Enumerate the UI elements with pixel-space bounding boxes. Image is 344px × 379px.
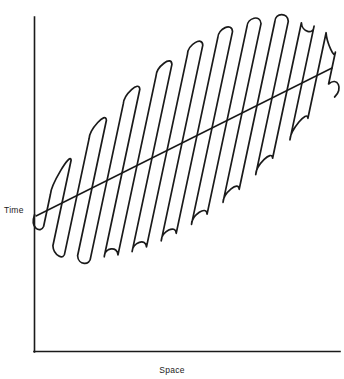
y-axis-label: Time [4, 205, 24, 215]
plot-svg [0, 0, 344, 379]
serpentine-curve [33, 15, 339, 264]
figure-canvas: Time Space [0, 0, 344, 379]
x-axis-label: Space [0, 365, 344, 375]
